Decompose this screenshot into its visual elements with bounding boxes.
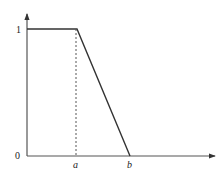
chart-canvas: 1 0 a b [0, 0, 224, 176]
x-tick-label-b: b [127, 159, 132, 170]
x-tick-label-a: a [73, 159, 78, 170]
y-tick-label-1: 1 [16, 24, 21, 35]
y-tick-label-0: 0 [15, 150, 20, 161]
membership-function-line [27, 29, 130, 156]
